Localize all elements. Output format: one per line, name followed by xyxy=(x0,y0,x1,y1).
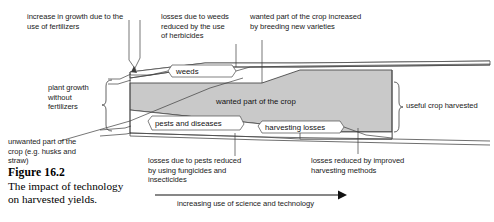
leader-fertilizers-c xyxy=(108,74,131,79)
figure-caption: The impact of technology on harvested yi… xyxy=(8,180,123,205)
annotation-useful-crop: useful crop harvested xyxy=(406,101,492,111)
annotation-fungicides: losses due to pests reduced by using fun… xyxy=(148,156,268,185)
leader-fertilizers-d xyxy=(108,80,131,84)
annotation-harvest-methods: losses reduced by improved harvesting me… xyxy=(311,156,441,175)
annotation-unwanted-part: unwanted part of the crop (e.g. husks an… xyxy=(8,137,103,166)
annotation-fertilizers: increase in growth due to the use of fer… xyxy=(27,12,142,31)
figure-panel: increase in growth due to the use of fer… xyxy=(0,0,494,222)
annotation-breeding: wanted part of the crop increased by bre… xyxy=(250,12,410,31)
leader-unwanted-b xyxy=(100,133,131,136)
brace-useful-crop xyxy=(394,82,403,132)
band-label-weeds: weeds xyxy=(176,67,199,76)
figure-number: Figure 16.2 xyxy=(8,166,65,179)
band-label-wanted-crop: wanted part of the crop xyxy=(216,97,296,106)
leader-fertilizers-arrow xyxy=(131,66,137,73)
annotation-plant-growth: plant growth without fertilizers xyxy=(48,83,108,112)
band-label-pests-and-diseases: pests and diseases xyxy=(155,119,222,128)
annotation-herbicides: losses due to weeds reduced by the use o… xyxy=(161,12,241,41)
band-label-harvesting-losses: harvesting losses xyxy=(265,123,325,132)
axis-label: increasing use of science and technology xyxy=(177,199,377,209)
